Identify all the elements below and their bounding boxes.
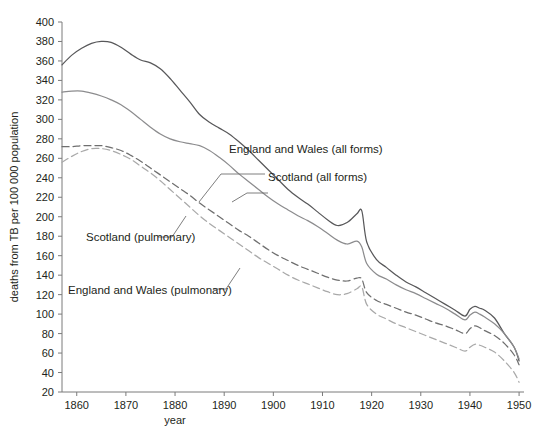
y-tick-label: 180 [36, 230, 54, 242]
x-tick-label: 1950 [507, 399, 531, 411]
y-tick-label: 340 [36, 74, 54, 86]
y-tick-label: 100 [36, 308, 54, 320]
y-tick-label: 140 [36, 269, 54, 281]
plot-background [0, 0, 533, 435]
series-label-ew-all: England and Wales (all forms) [229, 143, 383, 155]
x-tick-label: 1940 [458, 399, 482, 411]
tb-mortality-chart-figure: 2040608010012014016018020022024026028030… [0, 0, 533, 435]
y-tick-label: 300 [36, 113, 54, 125]
y-tick-label: 200 [36, 211, 54, 223]
y-tick-label: 400 [36, 16, 54, 28]
y-tick-label: 320 [36, 94, 54, 106]
chart-canvas: 2040608010012014016018020022024026028030… [0, 0, 533, 435]
y-tick-label: 120 [36, 289, 54, 301]
series-label-scot-pulm: Scotland (pulmonary) [86, 231, 195, 243]
x-tick-label: 1880 [163, 399, 187, 411]
y-tick-label: 20 [42, 386, 54, 398]
x-tick-label: 1870 [114, 399, 138, 411]
x-tick-label: 1910 [310, 399, 334, 411]
y-tick-label: 80 [42, 328, 54, 340]
y-tick-label: 260 [36, 152, 54, 164]
series-label-ew-pulm: England and Wales (pulmonary) [68, 284, 232, 296]
y-tick-label: 40 [42, 367, 54, 379]
x-tick-label: 1890 [212, 399, 236, 411]
y-tick-label: 220 [36, 191, 54, 203]
x-tick-label: 1860 [65, 399, 89, 411]
x-tick-label: 1920 [359, 399, 383, 411]
y-tick-label: 280 [36, 133, 54, 145]
x-tick-label: 1930 [409, 399, 433, 411]
series-label-scot-all: Scotland (all forms) [268, 171, 367, 183]
y-tick-label: 360 [36, 55, 54, 67]
y-axis-title: deaths from TB per 100 000 population [8, 112, 20, 303]
y-tick-label: 160 [36, 250, 54, 262]
y-tick-label: 380 [36, 35, 54, 47]
y-tick-label: 240 [36, 172, 54, 184]
x-tick-label: 1900 [261, 399, 285, 411]
y-tick-label: 60 [42, 347, 54, 359]
x-axis-title: year [164, 414, 186, 426]
